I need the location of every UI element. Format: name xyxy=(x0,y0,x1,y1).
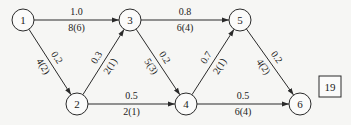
node-label: 1 xyxy=(20,14,26,26)
edge-bottom-label: 4(2) xyxy=(34,56,53,77)
edge-1-3: 1.08(6) xyxy=(34,6,119,34)
node-4: 4 xyxy=(175,93,197,115)
edge-arrow xyxy=(246,29,293,95)
edge-top-label: 0.3 xyxy=(88,49,104,65)
node-1: 1 xyxy=(12,9,34,31)
figure-number-box: 19 xyxy=(319,76,341,97)
edge-top-label: 0.5 xyxy=(237,90,250,101)
edge-bottom-label: 2(1) xyxy=(101,56,120,77)
edge-top-label: 0.5 xyxy=(125,90,138,101)
node-label: 2 xyxy=(74,98,80,110)
figure-number-label: 19 xyxy=(325,81,337,93)
edge-top-label: 0.2 xyxy=(49,49,65,65)
edge-5-6: 0.24(2) xyxy=(246,29,293,95)
node-2: 2 xyxy=(66,93,88,115)
edge-4-5: 0.72(1) xyxy=(192,29,234,94)
edge-top-label: 0.2 xyxy=(269,49,285,66)
node-label: 6 xyxy=(297,98,303,110)
edge-3-4: 0.25(3) xyxy=(136,29,180,95)
edge-2-3: 0.32(1) xyxy=(83,29,124,94)
edge-1-2: 0.24(2) xyxy=(29,29,71,94)
edge-bottom-label: 6(4) xyxy=(177,22,194,34)
edge-top-label: 1.0 xyxy=(70,6,83,17)
edge-bottom-label: 2(1) xyxy=(210,56,229,77)
edge-bottom-label: 6(4) xyxy=(235,106,252,118)
network-diagram: 1.08(6)0.86(4)0.24(2)0.32(1)0.25(3)0.72(… xyxy=(0,0,351,125)
edge-bottom-label: 5(3) xyxy=(142,56,161,77)
edge-top-label: 0.8 xyxy=(179,6,192,17)
edge-top-label: 0.7 xyxy=(198,49,214,65)
edge-2-4: 0.52(1) xyxy=(88,90,175,118)
node-label: 4 xyxy=(183,98,189,110)
node-5: 5 xyxy=(229,9,251,31)
edge-top-label: 0.2 xyxy=(157,49,173,66)
edge-bottom-label: 2(1) xyxy=(123,106,140,118)
edge-bottom-label: 4(2) xyxy=(254,56,273,77)
node-6: 6 xyxy=(289,93,311,115)
edge-3-5: 0.86(4) xyxy=(141,6,229,34)
edge-bottom-label: 8(6) xyxy=(68,22,85,34)
node-label: 3 xyxy=(127,14,133,26)
node-label: 5 xyxy=(237,14,243,26)
edge-4-6: 0.56(4) xyxy=(197,90,289,118)
node-3: 3 xyxy=(119,9,141,31)
